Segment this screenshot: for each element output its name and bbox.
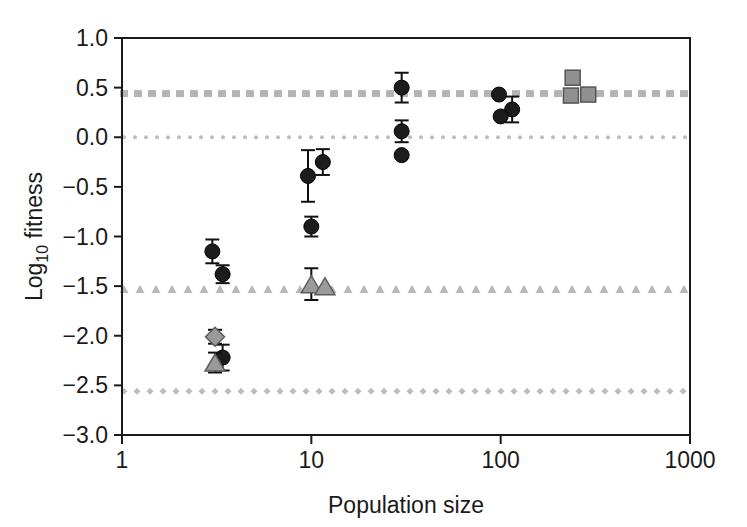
y-tick-label: −1.0 — [63, 224, 108, 250]
data-point-circle — [394, 120, 409, 142]
reference-marker — [232, 90, 240, 97]
reference-marker — [248, 285, 257, 293]
y-tick-label: 0.5 — [76, 75, 108, 101]
reference-marker — [595, 135, 599, 139]
marker-square — [563, 88, 578, 103]
reference-marker — [680, 388, 687, 395]
reference-marker — [661, 135, 665, 139]
reference-marker — [456, 285, 465, 293]
reference-marker — [628, 388, 635, 395]
data-point-square — [581, 87, 596, 102]
reference-marker — [152, 285, 161, 293]
reference-marker — [664, 285, 673, 293]
x-tick-label: 1000 — [664, 447, 715, 473]
reference-marker — [420, 388, 427, 395]
reference-marker — [638, 90, 646, 97]
marker-circle — [394, 80, 409, 95]
reference-marker — [375, 135, 379, 139]
reference-marker — [287, 135, 291, 139]
reference-marker — [147, 388, 154, 395]
marker-circle — [493, 109, 508, 124]
reference-marker — [616, 285, 625, 293]
reference-marker — [184, 285, 193, 293]
y-tick-label: −1.5 — [63, 273, 108, 299]
reference-marker — [602, 388, 609, 395]
reference-marker — [329, 388, 336, 395]
reference-marker — [456, 90, 464, 97]
reference-marker — [162, 90, 170, 97]
data-point-circle — [493, 109, 508, 124]
reference-marker — [672, 135, 676, 139]
reference-marker — [441, 135, 445, 139]
reference-marker — [472, 285, 481, 293]
reference-marker — [274, 90, 282, 97]
x-tick-label: 100 — [481, 447, 519, 473]
reference-marker — [554, 90, 562, 97]
reference-marker — [654, 388, 661, 395]
marker-square — [565, 70, 580, 85]
reference-marker — [624, 90, 632, 97]
reference-marker — [424, 285, 433, 293]
reference-line-diamond — [121, 388, 687, 395]
reference-marker — [134, 90, 142, 97]
marker-circle — [215, 267, 230, 282]
reference-marker — [507, 135, 511, 139]
reference-marker — [134, 388, 141, 395]
reference-marker — [330, 90, 338, 97]
reference-marker — [166, 135, 170, 139]
reference-marker — [218, 90, 226, 97]
reference-marker — [639, 135, 643, 139]
reference-marker — [173, 388, 180, 395]
reference-marker — [652, 90, 660, 97]
reference-marker — [302, 90, 310, 97]
reference-marker — [552, 285, 561, 293]
reference-marker — [680, 90, 688, 97]
reference-marker — [392, 285, 401, 293]
reference-marker — [600, 285, 609, 293]
reference-marker — [610, 90, 618, 97]
reference-marker — [251, 388, 258, 395]
reference-marker — [277, 388, 284, 395]
reference-marker — [243, 135, 247, 139]
data-point-circle — [304, 217, 319, 237]
reference-marker — [290, 388, 297, 395]
reference-marker — [225, 388, 232, 395]
y-tick-label: −2.0 — [63, 323, 108, 349]
reference-marker — [470, 90, 478, 97]
marker-circle — [492, 87, 507, 102]
data-point-circle — [394, 148, 409, 163]
reference-marker — [144, 135, 148, 139]
reference-marker — [254, 135, 258, 139]
reference-marker — [683, 135, 687, 139]
reference-marker — [667, 388, 674, 395]
reference-marker — [452, 135, 456, 139]
reference-marker — [148, 90, 156, 97]
reference-marker — [344, 285, 353, 293]
reference-marker — [303, 388, 310, 395]
reference-marker — [331, 135, 335, 139]
reference-marker — [573, 135, 577, 139]
data-point-square — [565, 70, 580, 85]
reference-marker — [232, 135, 236, 139]
reference-marker — [168, 285, 177, 293]
y-tick-label: −3.0 — [63, 422, 108, 448]
reference-marker — [376, 285, 385, 293]
reference-marker — [485, 135, 489, 139]
marker-circle — [394, 124, 409, 139]
reference-marker — [576, 388, 583, 395]
reference-marker — [264, 285, 273, 293]
reference-marker — [316, 90, 324, 97]
reference-marker — [155, 135, 159, 139]
marker-circle — [304, 219, 319, 234]
x-tick-label: 10 — [299, 447, 325, 473]
data-point-square — [563, 88, 578, 103]
reference-marker — [381, 388, 388, 395]
reference-marker — [407, 388, 414, 395]
scatter-plot: 1.00.50.0−0.5−1.0−1.5−2.0−2.5−3.01101001… — [0, 0, 747, 527]
reference-marker — [536, 285, 545, 293]
reference-marker — [537, 388, 544, 395]
reference-marker — [204, 90, 212, 97]
reference-marker — [216, 285, 225, 293]
reference-marker — [568, 285, 577, 293]
reference-marker — [584, 135, 588, 139]
